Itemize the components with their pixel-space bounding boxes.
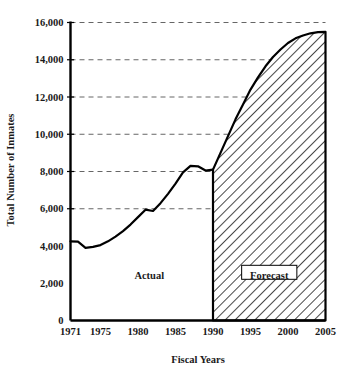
inmate-population-chart: 02,0004,0006,0008,00010,00012,00014,0001… <box>0 0 359 373</box>
chart-canvas: 02,0004,0006,0008,00010,00012,00014,0001… <box>0 0 359 373</box>
y-tick-label: 8,000 <box>40 166 64 177</box>
y-tick-label: 6,000 <box>40 203 64 214</box>
y-tick-label: 12,000 <box>35 92 64 103</box>
x-tick-label: 1975 <box>90 326 111 337</box>
y-tick-label: 2,000 <box>40 278 64 289</box>
x-tick-label: 1985 <box>165 326 186 337</box>
x-axis-title: Fiscal Years <box>171 354 225 365</box>
y-tick-label: 16,000 <box>35 17 64 28</box>
x-tick-label: 1990 <box>203 326 224 337</box>
y-axis-title: Total Number of Inmates <box>5 114 16 227</box>
x-tick-label: 1980 <box>128 326 149 337</box>
y-tick-label: 4,000 <box>40 241 64 252</box>
y-tick-label: 10,000 <box>35 129 64 140</box>
y-tick-label: 14,000 <box>35 54 64 65</box>
y-tick-label: 0 <box>58 315 63 326</box>
x-tick-label: 1971 <box>60 326 81 337</box>
region-label-forecast: Forecast <box>250 270 289 281</box>
x-tick-label: 2005 <box>315 326 336 337</box>
x-tick-label: 2000 <box>278 326 299 337</box>
region-label-actual: Actual <box>134 270 164 281</box>
x-tick-label: 1995 <box>240 326 261 337</box>
